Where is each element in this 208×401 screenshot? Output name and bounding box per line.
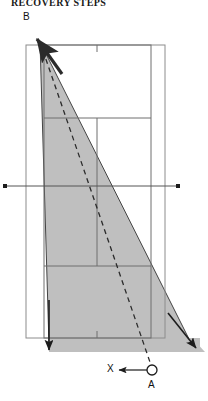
diagram-canvas — [0, 0, 208, 401]
axis-endpoint-left — [3, 184, 7, 188]
bottom-shaded-band — [49, 338, 200, 352]
shaded-wedge — [40, 42, 192, 345]
label-pivot-a: A — [148, 379, 155, 390]
diagram-svg — [0, 0, 208, 401]
label-apex-b: B — [23, 11, 30, 22]
label-axis-x: X — [107, 363, 114, 374]
axis-endpoint-right — [176, 184, 180, 188]
pivot-circle — [147, 365, 157, 375]
